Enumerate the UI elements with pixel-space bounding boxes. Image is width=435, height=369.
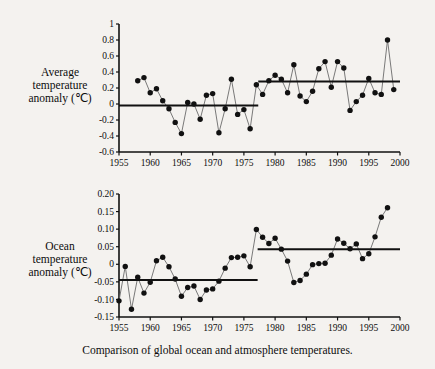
data-point-marker bbox=[191, 101, 196, 106]
x-axis-tick-label: 1985 bbox=[297, 323, 316, 333]
y-axis-tick-label: 0 bbox=[109, 259, 114, 269]
data-point-marker bbox=[141, 75, 146, 80]
data-point-marker bbox=[347, 246, 352, 251]
data-point-marker bbox=[304, 271, 309, 276]
data-point-marker bbox=[135, 78, 140, 83]
y-axis-tick-label: -0.2 bbox=[99, 115, 114, 125]
data-point-marker bbox=[304, 99, 309, 104]
data-point-marker bbox=[197, 117, 202, 122]
data-point-marker bbox=[222, 265, 227, 270]
data-point-marker bbox=[160, 98, 165, 103]
data-point-marker bbox=[254, 227, 259, 232]
data-point-marker bbox=[210, 91, 215, 96]
data-point-marker bbox=[272, 236, 277, 241]
data-point-marker bbox=[123, 264, 128, 269]
data-point-marker bbox=[204, 93, 209, 98]
x-axis-tick-label: 1965 bbox=[172, 158, 191, 168]
data-point-marker bbox=[385, 205, 390, 210]
chart-panel-ocean-temperature: Ocean temperature anomaly (℃) -0.15-0.10… bbox=[0, 180, 435, 340]
data-series-line bbox=[138, 40, 394, 134]
data-point-marker bbox=[279, 77, 284, 82]
data-point-marker bbox=[216, 278, 221, 283]
data-point-marker bbox=[247, 264, 252, 269]
x-axis-tick-label: 1955 bbox=[110, 158, 129, 168]
y-axis-tick-label: 0.10 bbox=[97, 224, 114, 234]
data-point-marker bbox=[266, 78, 271, 83]
plot-ocean-temperature: -0.15-0.10-0.0500.050.100.150.2019551960… bbox=[0, 180, 435, 340]
y-axis-tick-label: -0.4 bbox=[99, 131, 114, 141]
data-point-marker bbox=[135, 275, 140, 280]
y-axis-tick-label: 1 bbox=[109, 19, 114, 29]
data-point-marker bbox=[185, 100, 190, 105]
data-point-marker bbox=[310, 262, 315, 267]
x-axis-tick-label: 2000 bbox=[391, 158, 410, 168]
data-series-line bbox=[119, 208, 388, 310]
x-axis-tick-label: 1975 bbox=[234, 323, 253, 333]
data-point-marker bbox=[291, 280, 296, 285]
data-point-marker bbox=[260, 92, 265, 97]
data-point-marker bbox=[229, 77, 234, 82]
data-point-marker bbox=[341, 65, 346, 70]
x-axis-tick-label: 1990 bbox=[328, 158, 347, 168]
data-point-marker bbox=[222, 106, 227, 111]
y-axis-tick-label: 0.2 bbox=[102, 83, 114, 93]
data-point-marker bbox=[141, 290, 146, 295]
data-point-marker bbox=[335, 59, 340, 64]
data-point-marker bbox=[372, 234, 377, 239]
data-point-marker bbox=[166, 264, 171, 269]
x-axis-tick-label: 1985 bbox=[297, 158, 316, 168]
data-point-marker bbox=[173, 276, 178, 281]
figure-comparison-temperatures: Average temperature anomaly (℃) -0.6-0.4… bbox=[0, 0, 435, 369]
y-axis-tick-label: 0.8 bbox=[102, 35, 114, 45]
data-point-marker bbox=[247, 126, 252, 131]
plot-average-temperature: -0.6-0.4-0.200.20.40.60.8119551960196519… bbox=[0, 0, 435, 180]
data-point-marker bbox=[116, 298, 121, 303]
x-axis-tick-label: 1955 bbox=[110, 323, 129, 333]
y-axis-tick-label: -0.15 bbox=[94, 312, 114, 322]
data-point-marker bbox=[235, 112, 240, 117]
data-point-marker bbox=[385, 37, 390, 42]
figure-caption: Comparison of global ocean and atmospher… bbox=[0, 344, 435, 356]
data-point-marker bbox=[154, 86, 159, 91]
x-axis-tick-label: 1960 bbox=[141, 323, 160, 333]
data-point-marker bbox=[297, 93, 302, 98]
x-axis-tick-label: 1995 bbox=[359, 323, 378, 333]
data-point-marker bbox=[173, 120, 178, 125]
x-axis-tick-label: 1980 bbox=[266, 158, 285, 168]
data-point-marker bbox=[179, 294, 184, 299]
data-point-marker bbox=[235, 255, 240, 260]
data-point-marker bbox=[291, 62, 296, 67]
data-point-marker bbox=[354, 241, 359, 246]
data-point-marker bbox=[179, 131, 184, 136]
y-axis-tick-label: 0.05 bbox=[97, 242, 114, 252]
chart-panel-average-temperature: Average temperature anomaly (℃) -0.6-0.4… bbox=[0, 0, 435, 180]
data-point-marker bbox=[204, 287, 209, 292]
y-axis-tick-label: 0.6 bbox=[102, 51, 114, 61]
data-point-marker bbox=[272, 73, 277, 78]
x-axis-tick-label: 1980 bbox=[266, 323, 285, 333]
y-axis-tick-label: 0.15 bbox=[97, 207, 114, 217]
data-point-marker bbox=[148, 280, 153, 285]
data-point-marker bbox=[310, 89, 315, 94]
y-axis-tick-label: -0.6 bbox=[99, 147, 114, 157]
data-point-marker bbox=[279, 246, 284, 251]
data-point-marker bbox=[191, 283, 196, 288]
y-axis-tick-label: -0.05 bbox=[94, 277, 114, 287]
data-point-marker bbox=[266, 241, 271, 246]
x-axis-tick-label: 1960 bbox=[141, 158, 160, 168]
y-axis-tick-label: -0.10 bbox=[94, 295, 114, 305]
data-point-marker bbox=[329, 252, 334, 257]
data-point-marker bbox=[379, 92, 384, 97]
x-axis-tick-label: 2000 bbox=[391, 323, 410, 333]
x-axis-tick-label: 1975 bbox=[234, 158, 253, 168]
y-axis-tick-label: 0.4 bbox=[102, 67, 114, 77]
data-point-marker bbox=[360, 93, 365, 98]
data-point-marker bbox=[254, 82, 259, 87]
data-point-marker bbox=[366, 76, 371, 81]
data-point-marker bbox=[166, 106, 171, 111]
x-axis-tick-label: 1970 bbox=[203, 158, 222, 168]
data-point-marker bbox=[241, 107, 246, 112]
data-point-marker bbox=[322, 59, 327, 64]
data-point-marker bbox=[260, 235, 265, 240]
data-point-marker bbox=[285, 258, 290, 263]
